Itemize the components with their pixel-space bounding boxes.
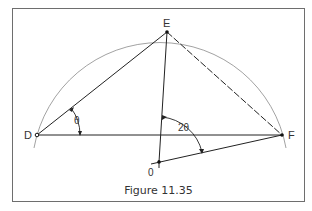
label-O: 0 [148, 167, 154, 178]
line-EO [159, 32, 167, 162]
line-OF [151, 135, 282, 164]
label-F: F [288, 129, 295, 141]
line-DE [37, 32, 167, 135]
point-D [35, 133, 39, 137]
geometry-diagram: E D F 0 θ 2θ [0, 0, 312, 211]
point-O [157, 160, 161, 164]
figure-caption: Figure 11.35 [12, 184, 305, 197]
line-EF-dashed [167, 32, 282, 135]
label-E: E [163, 17, 170, 29]
circle-arc [34, 43, 286, 148]
label-theta: θ [74, 115, 80, 126]
label-D: D [24, 129, 32, 141]
point-E [165, 30, 169, 34]
label-two-theta: 2θ [178, 122, 190, 133]
point-F [280, 133, 284, 137]
